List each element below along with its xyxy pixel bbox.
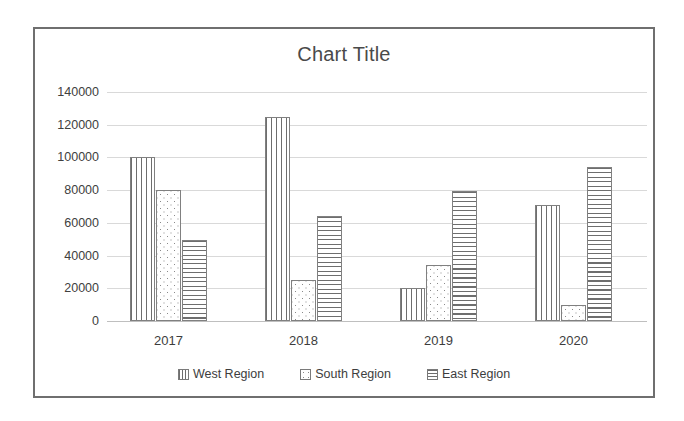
legend-swatch-icon bbox=[178, 369, 189, 380]
y-axis-tick-label: 140000 bbox=[57, 85, 99, 99]
chart-frame: Chart Title 0200004000060000800001000001… bbox=[33, 27, 655, 398]
axis-baseline bbox=[107, 321, 647, 322]
bar bbox=[400, 288, 425, 321]
legend-label: East Region bbox=[442, 367, 510, 381]
legend-swatch-icon bbox=[300, 369, 311, 380]
x-axis-category-label: 2017 bbox=[154, 333, 183, 348]
y-axis-tick-label: 0 bbox=[92, 314, 99, 328]
y-axis-tick-label: 80000 bbox=[64, 183, 99, 197]
x-axis-category-label: 2019 bbox=[424, 333, 453, 348]
y-axis-tick-label: 120000 bbox=[57, 118, 99, 132]
bar bbox=[317, 216, 342, 322]
y-axis-tick-label: 20000 bbox=[64, 281, 99, 295]
bar bbox=[291, 280, 316, 321]
legend-label: South Region bbox=[315, 367, 391, 381]
legend-label: West Region bbox=[193, 367, 264, 381]
bar bbox=[156, 190, 181, 321]
y-axis-tick-label: 100000 bbox=[57, 150, 99, 164]
legend-item[interactable]: West Region bbox=[178, 367, 264, 381]
plot-area: 020000400006000080000100000120000140000 … bbox=[107, 92, 647, 321]
y-axis-tick-label: 40000 bbox=[64, 249, 99, 263]
x-axis-category-label: 2018 bbox=[289, 333, 318, 348]
y-axis-tick-label: 60000 bbox=[64, 216, 99, 230]
chart-title: Chart Title bbox=[35, 43, 653, 66]
legend-item[interactable]: East Region bbox=[427, 367, 510, 381]
bar bbox=[426, 265, 451, 321]
bar bbox=[265, 117, 290, 321]
legend-item[interactable]: South Region bbox=[300, 367, 391, 381]
chart-legend: West RegionSouth RegionEast Region bbox=[35, 367, 653, 381]
bar bbox=[587, 167, 612, 321]
bar bbox=[535, 205, 560, 321]
bar bbox=[130, 157, 155, 321]
bar bbox=[452, 191, 477, 321]
bar bbox=[561, 305, 586, 321]
bar bbox=[182, 240, 207, 321]
legend-swatch-icon bbox=[427, 369, 438, 380]
x-axis-category-label: 2020 bbox=[559, 333, 588, 348]
bar-series-layer bbox=[107, 92, 647, 321]
